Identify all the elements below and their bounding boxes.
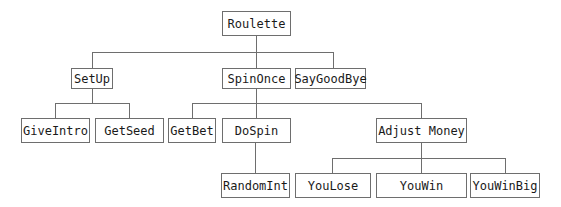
node-youwinbig: YouWinBig [470,173,540,198]
edge-adjustmoney-bar [332,158,506,159]
edge-to-youlose [332,158,333,173]
edge-spinonce-bar [192,103,422,104]
edge-to-setup [92,52,93,68]
node-getseed: GetSeed [95,118,164,143]
node-spinonce: SpinOnce [222,68,291,89]
edge-to-randomint [255,142,256,173]
node-youlose: YouLose [295,173,371,198]
edge-level1-bar [92,52,334,53]
edge-setup-bar [55,103,130,104]
node-saygoodbye: SayGoodBye [295,68,366,89]
edge-setup [92,88,93,103]
edge-to-adjustmoney [421,103,422,118]
node-setup: SetUp [71,68,113,89]
node-getbet: GetBet [168,118,216,143]
edge-to-giveintro [55,103,56,118]
node-roulette: Roulette [222,11,291,36]
edge-to-youwinbig [505,158,506,173]
node-youwin: YouWin [376,173,467,198]
node-dospin: DoSpin [222,118,291,143]
edge-to-getseed [129,103,130,118]
node-adjustmoney: Adjust Money [376,118,467,143]
node-giveintro: GiveIntro [21,118,90,143]
edge-to-saygoodbye [333,52,334,68]
node-randomint: RandomInt [221,173,290,198]
edge-to-getbet [192,103,193,118]
